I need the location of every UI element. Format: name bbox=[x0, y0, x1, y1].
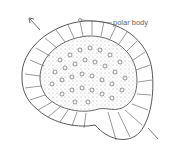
arrow-up-left-icon bbox=[29, 18, 40, 30]
arrow-down-right-line bbox=[148, 128, 158, 139]
embryo-diagram: polar body bbox=[0, 0, 173, 157]
polar-body bbox=[79, 19, 82, 22]
polar-body-label: polar body bbox=[113, 18, 148, 27]
